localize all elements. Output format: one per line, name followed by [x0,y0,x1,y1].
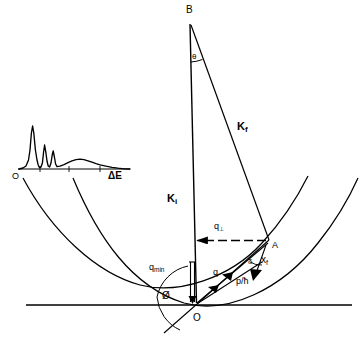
inner-parabola-curve [23,176,308,288]
label-point-A: A [272,241,278,250]
label-spectrum-delta-e: ΔE [108,171,122,181]
label-q-min: qmin [149,263,164,273]
p-hbar-vector [198,244,270,304]
label-angle-theta: θ [192,53,196,61]
label-q-vector: q [213,268,218,277]
label-k-initial: Ki [167,193,177,206]
spectrum-trace [19,126,130,169]
label-q-perp: q⊥ [214,222,224,232]
k-final-segment [191,25,269,240]
label-p-over-hbar: p/ħ [236,277,249,286]
label-angle-phi: Ø [162,291,170,301]
inset-spectrum [18,126,130,172]
q-min-subscript: min [154,266,164,273]
label-spectrum-origin: O [12,172,19,181]
diagram-svg [0,0,364,337]
label-origin-O: O [193,313,201,323]
k-final-symbol: K [237,120,245,132]
q-min-arrowhead [189,296,197,304]
k-initial-subscript: i [175,197,177,206]
x-final-subscript: f [266,258,268,267]
phi-angle-arc [157,297,180,330]
label-k-final: Kf [237,121,248,134]
label-angle-delta: δ [248,258,252,266]
label-x-final: xf [261,255,268,266]
figure-canvas: B θ Kf Ki A q⊥ δ xf p/ħ q qmin Ø O O ΔE [0,0,364,337]
label-apex-B: B [186,5,193,15]
x-final-arrowhead [250,269,262,281]
k-initial-line [190,24,197,303]
k-initial-symbol: K [167,192,175,204]
k-final-subscript: f [245,125,248,134]
q-perp-subscript: ⊥ [219,225,224,232]
